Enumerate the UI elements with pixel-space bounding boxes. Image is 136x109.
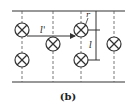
conductor-into-page-icon bbox=[46, 37, 60, 51]
figure-caption: (b) bbox=[0, 91, 136, 102]
conductor-into-page-icon bbox=[74, 23, 88, 37]
conductor-into-page-icon bbox=[15, 23, 29, 37]
conductor-group bbox=[15, 23, 121, 67]
label-l-prime: l' bbox=[40, 25, 45, 35]
label-l: l bbox=[89, 40, 92, 50]
conductor-into-page-icon bbox=[15, 53, 29, 67]
conductor-into-page-icon bbox=[74, 53, 88, 67]
dashed-guides bbox=[22, 11, 114, 82]
conductor-into-page-icon bbox=[107, 37, 121, 51]
